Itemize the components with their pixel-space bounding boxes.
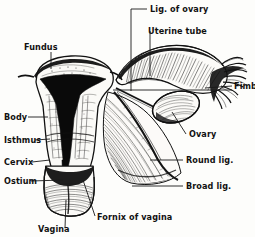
label-lig-of-ovary: Lig. of ovary bbox=[150, 4, 209, 14]
label-ovary: Ovary bbox=[189, 129, 217, 139]
label-uterine-tube: Uterine tube bbox=[148, 26, 207, 36]
leader-cervix bbox=[32, 160, 50, 162]
label-round-lig: Round lig. bbox=[186, 155, 233, 165]
label-vagina: Vagina bbox=[38, 224, 70, 234]
label-ostium: Ostium bbox=[4, 176, 37, 186]
anatomy-illustration: Lig. of ovary Uterine tube Fimbriae Ovar… bbox=[0, 0, 255, 237]
label-cervix: Cervix bbox=[4, 157, 34, 167]
label-fimbriae: Fimbriae bbox=[234, 81, 255, 91]
label-broad-lig: Broad lig. bbox=[186, 181, 231, 191]
label-fundus: Fundus bbox=[24, 42, 58, 52]
label-isthmus: Isthmus bbox=[4, 135, 41, 145]
anatomy-figure: Lig. of ovary Uterine tube Fimbriae Ovar… bbox=[0, 0, 255, 237]
label-fornix-of-vagina: Fornix of vagina bbox=[97, 212, 172, 222]
label-body: Body bbox=[4, 112, 28, 122]
